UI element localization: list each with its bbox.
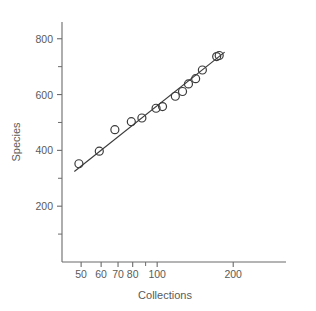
y-axis-ticks [57, 39, 62, 234]
x-axis-title: Collections [138, 289, 192, 301]
x-tick-label: 80 [127, 268, 139, 280]
data-point-marker [127, 118, 135, 126]
data-points [75, 51, 223, 167]
x-tick-label: 200 [224, 268, 242, 280]
x-tick-label: 70 [112, 268, 124, 280]
data-point-marker [75, 160, 83, 168]
species-collections-chart: 200400600800 50607080100200 Collections … [0, 0, 316, 311]
x-tick-label: 60 [95, 268, 107, 280]
data-point-marker [111, 126, 119, 134]
chart-canvas: 200400600800 50607080100200 Collections … [0, 0, 316, 311]
x-tick-label: 100 [148, 268, 166, 280]
y-axis-title: Species [10, 122, 22, 162]
x-tick-label: 50 [75, 268, 87, 280]
y-tick-label: 400 [35, 144, 53, 156]
data-point-marker [179, 87, 187, 95]
y-axis-tick-labels: 200400600800 [35, 33, 53, 212]
data-point-marker [171, 92, 179, 100]
x-axis-ticks [81, 262, 233, 267]
data-point-marker [215, 51, 223, 59]
y-tick-label: 200 [35, 200, 53, 212]
y-tick-label: 800 [35, 33, 53, 45]
x-axis-tick-labels: 50607080100200 [75, 268, 242, 280]
axes-group [62, 22, 286, 262]
y-tick-label: 600 [35, 89, 53, 101]
